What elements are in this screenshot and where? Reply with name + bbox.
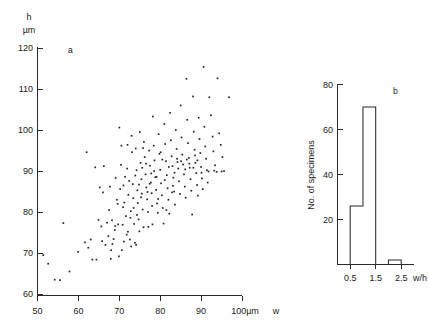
scatter-point bbox=[108, 209, 110, 211]
scatter-point bbox=[131, 151, 133, 153]
scatter-xtick-100: 100µm bbox=[231, 306, 259, 316]
scatter-point bbox=[59, 279, 61, 281]
scatter-y-axis-unit: µm bbox=[23, 25, 36, 35]
panel-a-scatter: 120 110 100 90 80 70 60 h µm 50 60 70 80… bbox=[18, 12, 280, 316]
scatter-point bbox=[144, 156, 146, 158]
scatter-point bbox=[127, 144, 129, 146]
panel-a-label: a bbox=[68, 45, 73, 55]
scatter-point bbox=[186, 159, 188, 161]
scatter-point bbox=[162, 207, 164, 209]
scatter-point bbox=[152, 224, 154, 226]
scatter-point bbox=[136, 214, 138, 216]
scatter-point bbox=[213, 170, 215, 172]
scatter-point bbox=[221, 171, 223, 173]
hist-y-ticks bbox=[338, 85, 343, 220]
scatter-y-axis-title: h bbox=[26, 12, 31, 22]
scatter-point bbox=[156, 203, 158, 205]
scatter-point bbox=[161, 194, 163, 196]
scatter-point bbox=[208, 171, 210, 173]
scatter-ytick-90: 90 bbox=[23, 166, 33, 176]
scatter-point bbox=[69, 271, 71, 273]
scatter-point bbox=[130, 210, 132, 212]
scatter-point bbox=[198, 117, 200, 119]
scatter-point bbox=[172, 165, 174, 167]
scatter-point bbox=[208, 96, 210, 98]
scatter-point bbox=[119, 188, 121, 190]
scatter-point bbox=[149, 165, 151, 167]
scatter-point bbox=[130, 246, 132, 248]
scatter-point bbox=[190, 190, 192, 192]
scatter-point bbox=[217, 78, 219, 80]
scatter-point bbox=[145, 187, 147, 189]
hist-ytick-60: 60 bbox=[323, 125, 333, 135]
scatter-point bbox=[101, 226, 103, 228]
scatter-ytick-80: 80 bbox=[23, 207, 33, 217]
scatter-point bbox=[123, 185, 125, 187]
scatter-point bbox=[164, 143, 166, 145]
scatter-point bbox=[173, 191, 175, 193]
scatter-ytick-110: 110 bbox=[19, 84, 33, 94]
scatter-point bbox=[124, 176, 126, 178]
scatter-point bbox=[177, 161, 179, 163]
scatter-point bbox=[223, 170, 225, 172]
scatter-point bbox=[147, 211, 149, 213]
scatter-point bbox=[94, 167, 96, 169]
scatter-point bbox=[220, 144, 222, 146]
scatter-point bbox=[197, 160, 199, 162]
scatter-point bbox=[167, 187, 169, 189]
hist-xtick-25: 2.5 bbox=[395, 273, 408, 283]
scatter-point bbox=[116, 199, 118, 201]
scatter-point bbox=[128, 194, 130, 196]
scatter-point bbox=[99, 187, 101, 189]
scatter-xtick-70: 70 bbox=[114, 306, 124, 316]
scatter-point bbox=[164, 179, 166, 181]
scatter-ytick-60: 60 bbox=[23, 289, 33, 299]
scatter-xtick-50: 50 bbox=[32, 306, 42, 316]
scatter-point bbox=[54, 279, 56, 281]
hist-ytick-20: 20 bbox=[323, 215, 333, 225]
scatter-point bbox=[184, 186, 186, 188]
scatter-ytick-100: 100 bbox=[18, 125, 33, 135]
scientific-figure: 120 110 100 90 80 70 60 h µm 50 60 70 80… bbox=[0, 0, 429, 335]
scatter-point bbox=[142, 209, 144, 211]
scatter-point bbox=[121, 249, 123, 251]
scatter-point bbox=[216, 171, 218, 173]
scatter-point bbox=[214, 164, 216, 166]
scatter-point bbox=[133, 207, 135, 209]
scatter-point bbox=[134, 242, 136, 244]
panel-b-histogram: 80 60 40 20 No. of specimens 0.5 1.5 2.5… bbox=[306, 80, 427, 283]
scatter-point bbox=[132, 183, 134, 185]
scatter-point bbox=[130, 217, 132, 219]
scatter-point bbox=[157, 212, 159, 214]
scatter-point bbox=[188, 157, 190, 159]
scatter-point bbox=[77, 251, 79, 253]
scatter-point bbox=[158, 133, 160, 135]
scatter-point bbox=[179, 193, 181, 195]
scatter-x-ticks bbox=[38, 296, 243, 302]
scatter-x-axis-title: w bbox=[272, 306, 280, 316]
scatter-point bbox=[181, 137, 183, 139]
scatter-point bbox=[156, 176, 158, 178]
scatter-point bbox=[125, 215, 127, 217]
scatter-point bbox=[110, 258, 112, 260]
scatter-point bbox=[138, 219, 140, 221]
scatter-y-ticks bbox=[38, 48, 44, 294]
scatter-point bbox=[140, 162, 142, 164]
scatter-point bbox=[180, 160, 182, 162]
scatter-point bbox=[201, 172, 203, 174]
scatter-point bbox=[141, 178, 143, 180]
scatter-point bbox=[145, 163, 147, 165]
scatter-point bbox=[204, 126, 206, 128]
scatter-point bbox=[163, 223, 165, 225]
scatter-point bbox=[159, 153, 161, 155]
scatter-point bbox=[119, 127, 121, 129]
scatter-point bbox=[84, 242, 86, 244]
scatter-point bbox=[107, 235, 109, 237]
scatter-point bbox=[184, 169, 186, 171]
scatter-point bbox=[186, 78, 188, 80]
scatter-point bbox=[92, 259, 94, 261]
scatter-point bbox=[185, 197, 187, 199]
hist-ytick-40: 40 bbox=[323, 170, 333, 180]
scatter-point bbox=[101, 240, 103, 242]
scatter-point bbox=[149, 183, 151, 185]
